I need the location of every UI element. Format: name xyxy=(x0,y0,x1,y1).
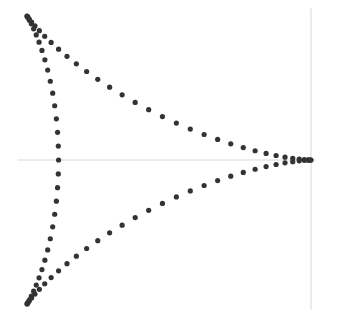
data-point xyxy=(39,48,44,53)
data-point xyxy=(56,171,61,176)
data-point xyxy=(188,188,193,193)
data-point xyxy=(290,159,295,164)
data-point xyxy=(32,291,37,296)
data-point xyxy=(274,153,279,158)
data-point xyxy=(49,275,54,280)
data-point xyxy=(54,116,59,121)
data-point xyxy=(36,275,41,280)
data-point xyxy=(31,26,36,31)
data-point xyxy=(49,40,54,45)
data-point xyxy=(95,238,100,243)
data-point xyxy=(56,268,61,273)
data-point xyxy=(48,236,53,241)
data-point xyxy=(241,145,246,150)
data-point xyxy=(282,155,287,160)
data-point xyxy=(55,130,60,135)
data-point xyxy=(241,170,246,175)
data-point xyxy=(74,254,79,259)
data-point xyxy=(29,21,34,26)
data-point xyxy=(45,247,50,252)
data-point xyxy=(160,201,165,206)
data-point xyxy=(42,258,47,263)
data-point xyxy=(74,61,79,66)
data-point xyxy=(84,69,89,74)
data-point xyxy=(50,91,55,96)
data-point xyxy=(215,137,220,142)
data-point xyxy=(39,267,44,272)
data-point xyxy=(29,295,34,300)
data-point xyxy=(297,158,302,163)
data-point xyxy=(120,92,125,97)
data-point xyxy=(64,261,69,266)
data-point xyxy=(45,67,50,72)
data-point xyxy=(263,151,268,156)
data-point xyxy=(52,212,57,217)
data-point xyxy=(42,34,47,39)
data-point xyxy=(174,120,179,125)
data-point xyxy=(253,148,258,153)
data-point xyxy=(34,283,39,288)
data-point xyxy=(107,85,112,90)
data-point xyxy=(174,194,179,199)
deltoid-scatter-plot xyxy=(0,0,339,336)
data-point xyxy=(228,141,233,146)
data-point xyxy=(133,215,138,220)
data-point xyxy=(48,79,53,84)
data-point xyxy=(188,126,193,131)
data-point xyxy=(56,157,61,162)
data-point xyxy=(50,224,55,229)
data-point xyxy=(54,199,59,204)
data-point xyxy=(42,57,47,62)
data-point xyxy=(263,164,268,169)
data-point xyxy=(52,103,57,108)
data-point xyxy=(202,132,207,137)
data-point xyxy=(274,162,279,167)
data-point xyxy=(146,107,151,112)
data-point xyxy=(56,47,61,52)
data-point xyxy=(37,287,42,292)
data-point xyxy=(160,114,165,119)
data-point xyxy=(55,185,60,190)
data-point xyxy=(56,143,61,148)
data-point xyxy=(133,100,138,105)
data-point xyxy=(37,28,42,33)
data-point xyxy=(282,160,287,165)
data-point xyxy=(120,223,125,228)
data-point xyxy=(64,54,69,59)
data-point xyxy=(36,40,41,45)
data-point xyxy=(34,32,39,37)
data-point xyxy=(84,246,89,251)
data-point xyxy=(202,183,207,188)
data-point xyxy=(95,77,100,82)
data-point xyxy=(228,174,233,179)
data-point xyxy=(107,230,112,235)
data-point xyxy=(215,178,220,183)
data-point xyxy=(42,281,47,286)
data-point xyxy=(146,208,151,213)
data-point xyxy=(308,157,313,162)
data-point xyxy=(253,167,258,172)
